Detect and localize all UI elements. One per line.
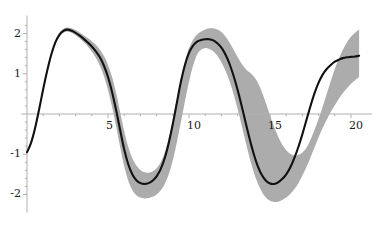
chart-figure: 5101520-2-112 xyxy=(0,0,379,227)
x-axis-ticks xyxy=(43,114,351,118)
x-tick-label: 5 xyxy=(106,120,113,131)
y-axis-ticks xyxy=(23,26,27,195)
x-tick-label: 20 xyxy=(349,120,363,131)
chart-plot-area xyxy=(0,0,379,227)
y-tick-label: 1 xyxy=(14,68,21,79)
x-tick-label: 15 xyxy=(268,120,282,131)
y-tick-label: -2 xyxy=(10,188,21,199)
y-tick-label: -1 xyxy=(10,148,21,159)
x-tick-label: 10 xyxy=(187,120,201,131)
confidence-band xyxy=(27,28,359,203)
y-tick-label: 2 xyxy=(14,28,21,39)
